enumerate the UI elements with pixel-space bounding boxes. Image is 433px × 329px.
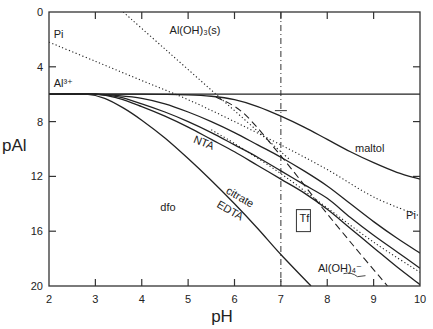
x-tick-label: 7: [278, 293, 284, 305]
annotation-label: Al³⁺: [54, 77, 73, 89]
x-axis-title: pH: [211, 307, 233, 326]
annotation-label: Pi: [54, 28, 64, 40]
series-citrate: [49, 94, 420, 268]
x-tick-label: 5: [185, 293, 191, 305]
pal-vs-ph-chart: 2345678910048121620 PiAl³⁺Al(OH)₃(s)NTAm…: [0, 0, 433, 329]
x-tick-label: 8: [324, 293, 330, 305]
x-tick-label: 6: [231, 293, 237, 305]
annotation-label: maltol: [355, 142, 384, 154]
y-tick-label: 20: [31, 280, 43, 292]
y-tick-label: 12: [31, 170, 43, 182]
x-tick-label: 10: [414, 293, 426, 305]
annotation-label: NTA: [192, 133, 217, 152]
annotation-label: Pi: [406, 209, 416, 221]
annotation-label: Al(OH)₄⁻: [318, 262, 362, 274]
y-tick-label: 16: [31, 225, 43, 237]
y-tick-label: 0: [37, 6, 43, 18]
y-tick-label: 8: [37, 116, 43, 128]
series-nta: [49, 94, 420, 253]
axes: 2345678910048121620: [31, 6, 426, 305]
annotation-label: Tf: [299, 212, 310, 224]
annotation-label: Al(OH)₃(s): [170, 24, 221, 36]
x-tick-label: 4: [139, 293, 145, 305]
annotations: PiAl³⁺Al(OH)₃(s)NTAmaltolcitrateEDTAdfoT…: [54, 24, 416, 277]
x-tick-label: 3: [92, 293, 98, 305]
annotation-label: dfo: [160, 201, 175, 213]
series-maltol: [49, 94, 420, 179]
y-axis-title: pAl: [2, 136, 27, 155]
y-tick-label: 4: [37, 61, 43, 73]
x-tick-label: 2: [46, 293, 52, 305]
x-tick-label: 9: [371, 293, 377, 305]
